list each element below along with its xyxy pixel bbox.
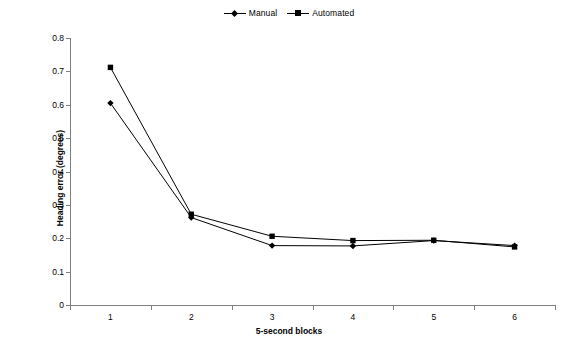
x-tick-label: 1 — [108, 312, 113, 322]
data-point-manual-1 — [107, 100, 113, 106]
data-point-manual-4 — [350, 243, 356, 249]
series-layer — [70, 38, 555, 305]
x-axis-title: 5-second blocks — [0, 326, 578, 336]
data-point-automated-6 — [512, 244, 517, 249]
y-tick-label: 0.8 — [52, 33, 64, 43]
x-tick — [474, 305, 475, 310]
x-tick — [313, 305, 314, 310]
chart-legend: Manual Automated — [0, 8, 578, 18]
data-point-manual-3 — [269, 242, 275, 248]
data-point-automated-5 — [431, 238, 436, 243]
plot-area: 00.10.20.30.40.50.60.70.8 123456 — [70, 38, 555, 305]
data-point-automated-2 — [189, 212, 194, 217]
x-tick-label: 5 — [431, 312, 436, 322]
y-tick-label: 0.2 — [52, 233, 64, 243]
legend-marker-diamond-icon — [224, 9, 246, 18]
y-tick-label: 0.3 — [52, 200, 64, 210]
x-tick — [393, 305, 394, 310]
y-axis-title: Heading error (degrees) — [55, 130, 65, 226]
legend-item-manual: Manual — [224, 8, 277, 18]
chart-figure: Manual Automated Heading error (degrees)… — [0, 0, 578, 356]
y-tick-label: 0.5 — [52, 133, 64, 143]
x-tick-label: 2 — [189, 312, 194, 322]
y-tick-label: 0.7 — [52, 66, 64, 76]
y-tick-label: 0.1 — [52, 267, 64, 277]
legend-label-automated: Automated — [312, 8, 354, 18]
series-line-automated — [110, 67, 514, 247]
x-tick-label: 3 — [270, 312, 275, 322]
data-point-automated-3 — [269, 234, 274, 239]
legend-marker-square-icon — [287, 9, 309, 18]
x-tick — [151, 305, 152, 310]
x-tick — [555, 305, 556, 310]
y-tick-label: 0.6 — [52, 100, 64, 110]
x-tick-label: 4 — [351, 312, 356, 322]
x-tick — [232, 305, 233, 310]
legend-item-automated: Automated — [287, 8, 354, 18]
y-tick-label: 0.4 — [52, 167, 64, 177]
x-tick — [70, 305, 71, 310]
data-point-automated-1 — [108, 65, 113, 70]
legend-label-manual: Manual — [249, 8, 277, 18]
series-line-manual — [110, 103, 514, 246]
x-tick-label: 6 — [512, 312, 517, 322]
data-point-automated-4 — [350, 238, 355, 243]
y-tick-label: 0 — [59, 300, 64, 310]
